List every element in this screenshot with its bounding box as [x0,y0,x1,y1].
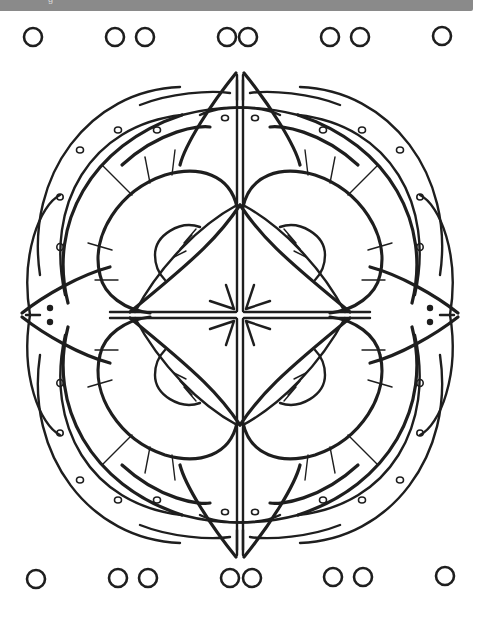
ring-ornament [24,28,42,46]
spear-top [180,73,300,165]
ring-ornament [433,27,451,45]
ring-ornament [218,28,236,46]
ring-ornament [436,567,454,585]
ring-ornament [136,28,154,46]
ornament-row-top [24,27,451,46]
ring-ornament [321,28,339,46]
ring-ornament [351,28,369,46]
ring-ornament [106,28,124,46]
ring-ornament [109,569,127,587]
ring-ornament [27,570,45,588]
ring-ornament [139,569,157,587]
central-cross [110,80,370,550]
ring-ornament [243,569,261,587]
ring-ornament [354,568,372,586]
center-flower [130,205,350,425]
mandala [22,73,458,557]
mandala-outer-ring [38,87,442,543]
spear-right [370,267,458,363]
coloring-page-canvas [0,0,485,618]
ring-ornament [239,28,257,46]
ring-ornament [221,569,239,587]
ring-ornament [324,568,342,586]
center-starburst-icon [210,285,270,345]
spear-left [22,267,110,363]
spear-bottom [180,465,300,557]
ornament-row-bottom [27,567,454,588]
